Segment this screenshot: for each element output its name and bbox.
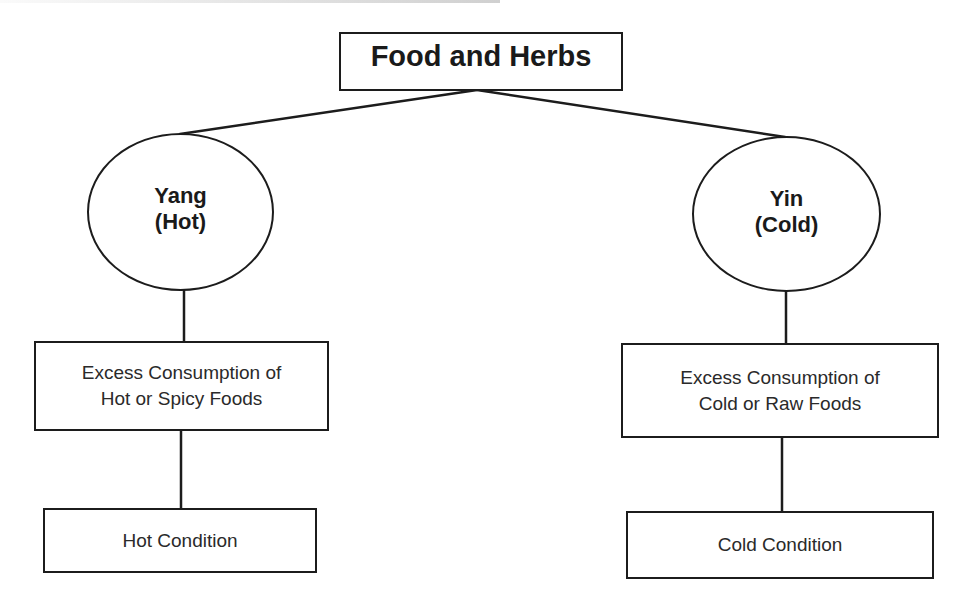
cold-condition-box: Cold Condition — [626, 511, 934, 579]
yin-label: Yin — [770, 186, 803, 212]
yin-cold-node: Yin (Cold) — [692, 136, 881, 292]
root-node-food-and-herbs: Food and Herbs — [339, 32, 623, 91]
yang-label: Yang — [154, 183, 207, 209]
cold-cause-line-1: Excess Consumption of — [680, 365, 880, 391]
hot-label: (Hot) — [155, 209, 206, 235]
yang-hot-node: Yang (Hot) — [87, 133, 274, 291]
cropped-running-header — [0, 0, 500, 3]
hot-spicy-foods-cause-box: Excess Consumption of Hot or Spicy Foods — [34, 341, 329, 431]
edge-root-to-yin — [477, 90, 785, 137]
cold-cause-line-2: Cold or Raw Foods — [699, 391, 862, 417]
hot-condition-box: Hot Condition — [43, 508, 317, 573]
edge-root-to-yang — [180, 90, 477, 134]
hot-cause-line-2: Hot or Spicy Foods — [101, 386, 263, 412]
root-label: Food and Herbs — [371, 40, 592, 73]
cold-condition-label: Cold Condition — [718, 532, 843, 558]
hot-condition-label: Hot Condition — [122, 528, 237, 554]
hot-cause-line-1: Excess Consumption of — [82, 360, 282, 386]
cold-raw-foods-cause-box: Excess Consumption of Cold or Raw Foods — [621, 343, 939, 438]
cold-label: (Cold) — [755, 212, 819, 238]
